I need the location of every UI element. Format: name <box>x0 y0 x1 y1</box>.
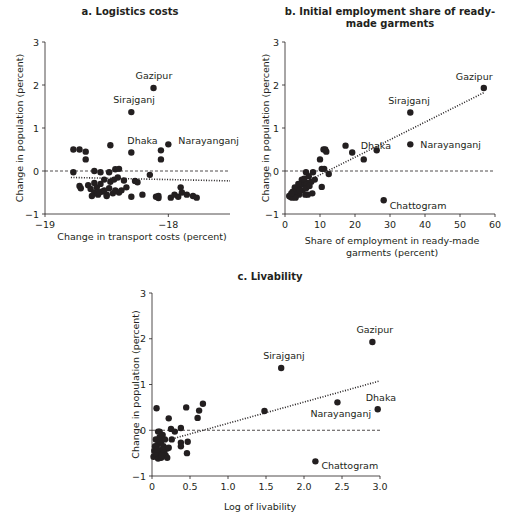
panel-a: a. Logistics costs −10123−19−18Change in… <box>0 0 260 260</box>
y-axis-label: Change in population (percent) <box>130 310 141 458</box>
point-label: Dhaka <box>361 140 391 151</box>
data-point <box>326 171 332 177</box>
data-point <box>321 166 327 172</box>
data-point <box>128 194 134 200</box>
y-tick-label: 0 <box>273 166 279 177</box>
data-point <box>154 446 160 452</box>
point-label: Chattogram <box>390 200 447 211</box>
data-point <box>302 191 308 197</box>
data-point <box>317 156 323 162</box>
point-label: Sirajganj <box>263 350 305 361</box>
data-point <box>107 142 113 148</box>
data-point <box>103 193 109 199</box>
data-point <box>349 149 355 155</box>
labeled-data-point <box>165 141 171 147</box>
data-point <box>184 450 190 456</box>
labeled-data-point <box>407 141 413 147</box>
data-point <box>361 156 367 162</box>
data-point <box>172 428 178 434</box>
data-point <box>89 193 95 199</box>
data-point <box>158 156 164 162</box>
y-tick-label: −1 <box>132 471 146 482</box>
labeled-data-point <box>481 85 487 91</box>
x-axis-label: garments (percent) <box>346 247 438 258</box>
x-tick-label: 2.0 <box>296 481 311 492</box>
data-point <box>155 195 161 201</box>
data-point <box>121 177 127 183</box>
data-point <box>76 146 82 152</box>
data-point <box>185 438 191 444</box>
data-point <box>101 176 107 182</box>
labeled-data-point <box>312 458 318 464</box>
data-point <box>342 142 348 148</box>
data-point <box>153 405 159 411</box>
x-tick-label: −19 <box>35 219 55 230</box>
data-point <box>70 146 76 152</box>
y-tick-label: −1 <box>265 209 279 220</box>
data-point <box>309 190 315 196</box>
x-tick-label: 40 <box>419 219 431 230</box>
data-point <box>319 184 325 190</box>
data-point <box>306 173 312 179</box>
x-axis-label: Change in transport costs (percent) <box>57 231 226 242</box>
point-label: Gazipur <box>136 70 173 81</box>
x-tick-label: 2.5 <box>334 481 349 492</box>
labeled-data-point <box>375 406 381 412</box>
data-point <box>159 452 165 458</box>
x-axis-label: Share of employment in ready-made <box>305 235 480 246</box>
point-label: Sirajganj <box>388 95 430 106</box>
data-point <box>306 183 312 189</box>
y-tick-label: 2 <box>273 80 279 91</box>
point-label: Sirajganj <box>113 94 155 105</box>
data-point <box>184 191 190 197</box>
labeled-data-point <box>128 149 134 155</box>
data-point <box>169 436 175 442</box>
x-tick-label: 10 <box>314 219 326 230</box>
panel-c-plot: −1012300.51.01.52.02.53.0Change in popul… <box>130 265 430 527</box>
x-tick-label: −18 <box>158 219 178 230</box>
data-point <box>115 174 121 180</box>
data-point <box>78 185 84 191</box>
data-point <box>166 444 172 450</box>
labeled-data-point <box>369 339 375 345</box>
data-point <box>83 156 89 162</box>
data-point <box>116 166 122 172</box>
x-tick-label: 30 <box>384 219 396 230</box>
y-axis-label: Change in population (percent) <box>260 54 271 202</box>
point-label: Narayanganj <box>178 135 239 146</box>
data-point <box>166 415 172 421</box>
y-tick-label: −1 <box>25 209 39 220</box>
x-tick-label: 1.5 <box>258 481 273 492</box>
y-tick-label: 0 <box>33 166 39 177</box>
data-point <box>194 415 200 421</box>
data-point <box>70 169 76 175</box>
y-tick-label: 3 <box>140 288 146 299</box>
data-point <box>83 148 89 154</box>
data-point <box>178 425 184 431</box>
data-point <box>196 407 202 413</box>
point-label: Gazipur <box>356 324 393 335</box>
panel-a-plot: −10123−19−18Change in population (percen… <box>0 0 260 260</box>
data-point <box>178 443 184 449</box>
point-label: Gazipur <box>456 71 493 82</box>
x-tick-label: 1.0 <box>220 481 235 492</box>
data-point <box>288 190 294 196</box>
x-tick-label: 20 <box>349 219 361 230</box>
point-label: Dhaka <box>366 392 396 403</box>
labeled-data-point <box>150 85 156 91</box>
y-tick-label: 3 <box>33 37 39 48</box>
labeled-data-point <box>128 109 134 115</box>
data-point <box>177 184 183 190</box>
point-label: Dhaka <box>127 135 157 146</box>
data-point <box>322 146 328 152</box>
y-tick-label: 1 <box>33 123 39 134</box>
data-point <box>158 147 164 153</box>
data-point <box>194 194 200 200</box>
data-point <box>261 408 267 414</box>
labeled-data-point <box>278 365 284 371</box>
labeled-data-point <box>334 399 340 405</box>
point-label: Narayanganj <box>420 139 481 150</box>
point-label: Narayanganj <box>310 408 371 419</box>
data-point <box>134 179 140 185</box>
data-point <box>183 404 189 410</box>
